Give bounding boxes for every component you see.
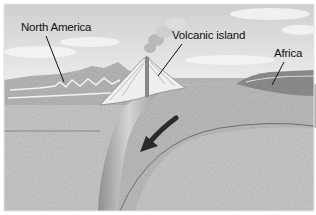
subduction-diagram: North America Volcanic island Africa — [0, 0, 316, 215]
label-north-america: North America — [21, 21, 91, 33]
label-volcanic-island: Volcanic island — [172, 29, 245, 41]
label-africa: Africa — [274, 47, 302, 59]
magma-conduit — [145, 57, 149, 97]
